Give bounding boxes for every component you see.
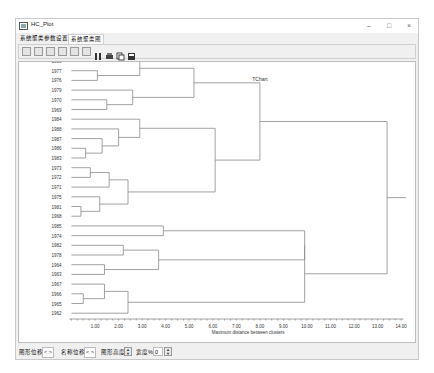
status-bar: 图形位移 < > 名称位移 < > 图形高度 ▲▼ 宽度% 0 ▲▼ [16, 345, 418, 359]
move-icon[interactable] [58, 47, 67, 56]
leaf-label: 1981 [51, 205, 62, 210]
copy-icon[interactable] [116, 47, 125, 56]
x-tick-label: 13.00 [372, 324, 384, 329]
zoom-out-icon[interactable] [46, 47, 55, 56]
x-tick-label: 8.00 [256, 324, 265, 329]
print-icon[interactable] [105, 47, 114, 56]
window-title: HC_Plot [31, 21, 53, 27]
x-tick-label: 10.00 [301, 324, 313, 329]
tab-cluster-settings[interactable]: 系统聚类参数设置 [18, 34, 70, 43]
width-spinner[interactable]: ▲▼ [164, 347, 172, 356]
leaf-label: 1963 [51, 272, 62, 277]
save-icon[interactable] [127, 47, 136, 56]
leaf-label: 1962 [51, 311, 62, 316]
x-tick-label: 7.00 [232, 324, 241, 329]
leaf-label: 1985 [51, 224, 62, 229]
leaf-label: 1964 [51, 263, 62, 268]
leaf-label: 1982 [51, 243, 62, 248]
leaf-label: 1973 [51, 166, 62, 171]
options-icon[interactable] [82, 47, 91, 56]
label-shift-arrows[interactable]: < > [84, 347, 96, 358]
app-icon [19, 22, 28, 30]
leaf-label: 1968 [51, 214, 62, 219]
leaf-label: 1977 [51, 69, 62, 74]
x-axis-label: Maximum distance between clusters [212, 330, 285, 335]
width-input[interactable]: 0 [153, 347, 163, 356]
title-bar: HC_Plot – □ × [16, 19, 418, 33]
x-tick-label: 12.00 [348, 324, 360, 329]
leaf-label: 1971 [51, 185, 62, 190]
graph-shift-arrows[interactable]: < > [42, 347, 54, 358]
data-icon[interactable] [94, 47, 103, 56]
dendrogram-chart[interactable]: TChart1980197719761979197019691984198819… [18, 61, 416, 343]
3d-chart-icon[interactable] [70, 47, 79, 56]
tab-cluster-plot[interactable]: 系统聚类图 [68, 34, 104, 44]
x-tick-label: 14.00 [396, 324, 408, 329]
zoom-in-icon[interactable] [22, 47, 31, 56]
leaf-label: 1972 [51, 175, 62, 180]
leaf-label: 1984 [51, 117, 62, 122]
rotate-icon[interactable] [34, 47, 43, 56]
leaf-label: 1976 [51, 78, 62, 83]
width-label: 宽度% [136, 348, 153, 356]
graph-height-spinner[interactable]: ▲▼ [124, 347, 132, 356]
leaf-label: 1970 [51, 98, 62, 103]
graph-height-label: 图形高度 [101, 348, 125, 356]
leaf-label: 1965 [51, 302, 62, 307]
leaf-label: 1978 [51, 253, 62, 258]
leaf-label: 1975 [51, 195, 62, 200]
x-tick-label: 3.00 [138, 324, 147, 329]
dendrogram-plot: TChart1980197719761979197019691984198819… [19, 62, 415, 342]
x-tick-label: 6.00 [208, 324, 217, 329]
leaf-label: 1974 [51, 234, 62, 239]
leaf-label: 1988 [51, 127, 62, 132]
x-tick-label: 2.00 [114, 324, 123, 329]
close-button[interactable]: × [402, 20, 416, 32]
leaf-label: 1967 [51, 282, 62, 287]
leaf-label: 1987 [51, 137, 62, 142]
chart-title: TChart [252, 76, 268, 82]
maximize-button[interactable]: □ [382, 20, 396, 32]
leaf-label: 1966 [51, 292, 62, 297]
hc-plot-window: HC_Plot – □ × 系统聚类参数设置 系统聚类图 TChart19801… [15, 18, 419, 360]
leaf-label: 1969 [51, 108, 62, 113]
leaf-label: 1986 [51, 146, 62, 151]
leaf-label: 1980 [51, 62, 62, 64]
minimize-button[interactable]: – [362, 20, 376, 32]
x-tick-label: 5.00 [185, 324, 194, 329]
x-tick-label: 4.00 [161, 324, 170, 329]
x-tick-label: 1.00 [91, 324, 100, 329]
x-tick-label: 11.00 [325, 324, 336, 329]
x-tick-label: 9.00 [279, 324, 288, 329]
tab-bar: 系统聚类参数设置 系统聚类图 [16, 33, 418, 44]
chart-toolbar [18, 44, 416, 59]
label-shift-label: 名称位移 [61, 348, 85, 356]
graph-shift-label: 图形位移 [19, 348, 43, 356]
leaf-label: 1979 [51, 88, 62, 93]
leaf-label: 1983 [51, 156, 62, 161]
